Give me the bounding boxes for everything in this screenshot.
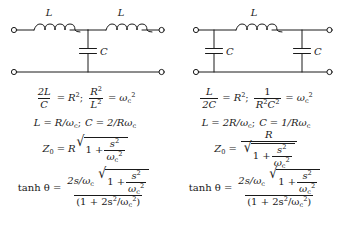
equals-sign: = bbox=[40, 118, 54, 129]
label-L1: L bbox=[250, 7, 258, 18]
label-C2: C bbox=[314, 46, 322, 57]
terminal-top-left bbox=[11, 27, 16, 32]
value-C: 1/Rωc bbox=[281, 118, 310, 129]
numerator: 2s/ωc √ 1 +s2ωc2 bbox=[236, 169, 322, 195]
term-omega-c-squared: ωc2 bbox=[297, 93, 313, 104]
radical-sign: √ bbox=[244, 141, 252, 170]
equals-sign: = bbox=[219, 93, 233, 104]
circuit-pi-section: L C C bbox=[190, 4, 336, 80]
den-lead: (1 + 2s bbox=[247, 196, 284, 207]
separator-semicolon: ; bbox=[252, 118, 259, 129]
term-R-squared: R2 bbox=[68, 93, 80, 104]
equals-sign: = bbox=[208, 118, 222, 129]
den-close: ) bbox=[307, 196, 311, 207]
fraction-one-over-R2C2: 1 R2C2 bbox=[254, 87, 282, 110]
equals-sign: = bbox=[221, 183, 235, 194]
numerator-R: R bbox=[263, 130, 275, 141]
equals-sign: = bbox=[54, 144, 68, 155]
separator-semicolon: ; bbox=[245, 93, 252, 104]
equations-pi-section: L 2C = R2 ; 1 R2C2 = ωc2 L = 2R/ωc ; C =… bbox=[171, 84, 341, 212]
radicand-lead: 1 + bbox=[86, 144, 104, 155]
fraction-s2-over-wc2: s2ωc2 bbox=[104, 139, 124, 162]
fraction-Rsq-over-Lsq: R2 L2 bbox=[88, 87, 104, 110]
terminal-top-right bbox=[159, 27, 164, 32]
inductor-L2 bbox=[106, 24, 152, 32]
equation-pi-design-relation: L 2C = R2 ; 1 R2C2 = ωc2 bbox=[171, 84, 341, 112]
symbol-Z0: Z0 bbox=[214, 144, 225, 155]
equation-tee-propagation-function: tanh θ = 2s/ωc √ 1 +s2ωc2 (1 + 2s2/ωc2) bbox=[0, 164, 170, 212]
numerator-one: 1 bbox=[262, 87, 272, 98]
symbol-L: L bbox=[34, 118, 41, 129]
radical-numerator: √ 1 +s2ωc2 bbox=[98, 169, 149, 194]
terminal-bottom-left bbox=[193, 69, 198, 74]
figure-root: L L C bbox=[0, 0, 341, 228]
fraction-2L-over-C: 2L C bbox=[36, 87, 53, 110]
fraction-s2-over-wc2: s2ωc2 bbox=[126, 171, 146, 194]
den-mid: /ω bbox=[288, 196, 300, 207]
radical-sign: √ bbox=[77, 134, 85, 163]
radicand-lead: 1 + bbox=[107, 176, 125, 187]
radicand-lead: 1 + bbox=[278, 176, 296, 187]
denominator: (1 + 2s2/ωc2) bbox=[245, 195, 313, 207]
equals-sign-2: = bbox=[105, 93, 119, 104]
equals-sign: = bbox=[50, 183, 64, 194]
fraction-s2-over-wc2: s2ωc2 bbox=[297, 171, 317, 194]
label-C1: C bbox=[100, 46, 108, 57]
coef-2s-over-wc: 2s/ωc bbox=[67, 175, 94, 186]
coef-2s-over-wc: 2s/ωc bbox=[238, 175, 265, 186]
symbol-L: L bbox=[202, 118, 209, 129]
terminal-bottom-right bbox=[159, 69, 164, 74]
equals-sign-2: = bbox=[282, 93, 296, 104]
den-lead: (1 + 2s bbox=[76, 196, 113, 207]
separator-semicolon: ; bbox=[78, 118, 85, 129]
label-L2: L bbox=[117, 7, 125, 18]
term-R-squared: R2 bbox=[234, 93, 246, 104]
symbol-Z0: Z0 bbox=[42, 144, 53, 155]
radical-impedance: √ 1 +s2ωc2 bbox=[77, 137, 128, 162]
radicand: 1 +s2ωc2 bbox=[276, 169, 320, 194]
circuit-pi-svg: L C C bbox=[190, 4, 336, 80]
equals-sign: = bbox=[225, 144, 239, 155]
term-omega-c-squared: ωc2 bbox=[119, 93, 135, 104]
denominator-R2C2: R2C2 bbox=[254, 98, 282, 110]
fraction-tanh: 2s/ωc √ 1 +s2ωc2 (1 + 2s2/ωc2) bbox=[65, 169, 151, 207]
fraction-L-over-2C: L 2C bbox=[200, 87, 218, 110]
fraction-tanh: 2s/ωc √ 1 +s2ωc2 (1 + 2s2/ωc2) bbox=[236, 169, 322, 207]
terminal-bottom-left bbox=[11, 69, 16, 74]
equation-tee-image-impedance: Z0 = R √ 1 +s2ωc2 bbox=[0, 134, 170, 164]
inductor-L1 bbox=[34, 24, 80, 32]
equation-tee-design-relation: 2L C = R2 ; R2 L2 = ωc2 bbox=[0, 84, 170, 112]
equals-sign-2: = bbox=[93, 118, 107, 129]
radicand-lead: 1 + bbox=[253, 150, 271, 161]
label-C1: C bbox=[226, 46, 234, 57]
den-mid: /ω bbox=[117, 196, 129, 207]
radicand: 1 +s2ωc2 bbox=[105, 169, 149, 194]
equations-tee-section: 2L C = R2 ; R2 L2 = ωc2 L = R/ωc ; C = 2… bbox=[0, 84, 170, 212]
value-C: 2/Rωc bbox=[107, 118, 136, 129]
equation-pi-propagation-function: tanh θ = 2s/ωc √ 1 +s2ωc2 (1 + 2s2/ωc2) bbox=[171, 164, 341, 212]
separator-semicolon: ; bbox=[80, 93, 87, 104]
equals-sign: = bbox=[54, 93, 68, 104]
equation-tee-element-values: L = R/ωc ; C = 2/Rωc bbox=[0, 112, 170, 134]
label-tanh-theta: tanh θ bbox=[18, 183, 50, 194]
label-L1: L bbox=[45, 7, 53, 18]
denominator: (1 + 2s2/ωc2) bbox=[74, 195, 142, 207]
fraction-R-over-radical: R √ 1 +s2ωc2 bbox=[241, 130, 297, 168]
value-L: 2R/ωc bbox=[223, 118, 252, 129]
numerator: 2s/ωc √ 1 +s2ωc2 bbox=[65, 169, 151, 195]
radical-sign: √ bbox=[269, 167, 277, 196]
circuit-tee-section: L L C bbox=[8, 4, 168, 80]
terminal-bottom-right bbox=[327, 69, 332, 74]
equals-sign-2: = bbox=[267, 118, 281, 129]
den-close: ) bbox=[136, 196, 140, 207]
radicand: 1 +s2ωc2 bbox=[84, 137, 128, 162]
radical-numerator: √ 1 +s2ωc2 bbox=[269, 169, 320, 194]
label-tanh-theta: tanh θ bbox=[189, 183, 221, 194]
coefficient-R: R bbox=[68, 144, 76, 155]
value-L: R/ωc bbox=[55, 118, 78, 129]
terminal-top-left bbox=[193, 27, 198, 32]
circuit-tee-svg: L L C bbox=[8, 4, 168, 80]
inductor-L1 bbox=[236, 24, 282, 32]
symbol-C: C bbox=[259, 118, 267, 129]
radical-sign: √ bbox=[98, 167, 106, 196]
